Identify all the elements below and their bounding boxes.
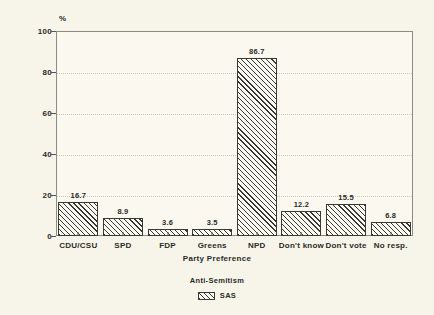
x-axis-category-label: NPD — [248, 241, 266, 250]
x-axis-tick-mark — [78, 232, 79, 236]
x-axis-tick-mark — [122, 232, 123, 236]
bar-group: 8.9 — [101, 31, 146, 236]
bar-group: 16.7 — [56, 31, 101, 236]
bar — [237, 58, 277, 236]
bar-group: 86.7 — [235, 31, 280, 236]
bar-chart: % 020406080100 16.78.93.63.586.712.215.5… — [0, 0, 434, 315]
x-axis-category-label: CDU/CSU — [59, 241, 97, 250]
bar-group: 15.5 — [324, 31, 369, 236]
x-axis-category-label: No resp. — [374, 241, 408, 250]
y-axis-tick-label: 40 — [18, 150, 52, 159]
y-axis-tick-label: 0 — [18, 232, 52, 241]
x-axis-tick-mark — [167, 232, 168, 236]
bar-value-label: 12.2 — [294, 200, 309, 209]
bar-group: 3.6 — [145, 31, 190, 236]
x-axis-category-label: FDP — [159, 241, 176, 250]
bar-value-label: 86.7 — [249, 47, 264, 56]
x-axis-category-label: SPD — [114, 241, 131, 250]
legend-swatch-icon — [198, 292, 215, 300]
legend-title: Anti-Semitism — [0, 276, 434, 285]
y-axis-unit-label: % — [59, 14, 67, 23]
bar-value-label: 3.6 — [162, 218, 173, 227]
bar-value-label: 6.8 — [385, 211, 396, 220]
x-axis-category-label: Don't know — [279, 241, 324, 250]
x-axis-tick-mark — [301, 232, 302, 236]
y-axis-tick-label: 20 — [18, 191, 52, 200]
legend: SAS — [0, 291, 434, 300]
bar-value-label: 3.5 — [207, 218, 218, 227]
x-axis-title: Party Preference — [0, 254, 434, 263]
bar-group: 6.8 — [368, 31, 413, 236]
x-axis-tick-mark — [346, 232, 347, 236]
bar-group: 12.2 — [279, 31, 324, 236]
bar-value-label: 16.7 — [71, 191, 86, 200]
bar-value-label: 15.5 — [338, 193, 353, 202]
bar-value-label: 8.9 — [117, 207, 128, 216]
y-axis-tick-label: 100 — [18, 27, 52, 36]
bar — [58, 202, 98, 236]
y-axis-tick-mark — [51, 236, 56, 237]
y-axis-tick-label: 80 — [18, 68, 52, 77]
x-axis-tick-mark — [390, 232, 391, 236]
bar-group: 3.5 — [190, 31, 235, 236]
bars-layer: 16.78.93.63.586.712.215.56.8 — [56, 31, 413, 236]
x-axis-category-label: Greens — [198, 241, 227, 250]
x-axis-category-label: Don't vote — [325, 241, 366, 250]
y-axis-tick-label: 60 — [18, 109, 52, 118]
legend-entry-label: SAS — [220, 291, 236, 300]
x-axis-tick-mark — [212, 232, 213, 236]
x-axis-tick-mark — [256, 232, 257, 236]
